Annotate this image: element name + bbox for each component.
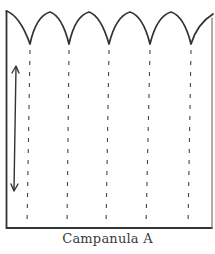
dashed-line-2 bbox=[67, 50, 69, 226]
dashed-line-3 bbox=[106, 50, 109, 226]
dashed-line-5 bbox=[188, 50, 191, 226]
grainline-arrow-icon bbox=[11, 66, 19, 191]
dashed-fold-lines bbox=[27, 50, 191, 226]
campanula-pattern-diagram bbox=[0, 0, 215, 254]
pattern-outline bbox=[7, 11, 214, 228]
scalloped-top-edge bbox=[7, 11, 214, 44]
dashed-line-4 bbox=[146, 50, 150, 226]
diagram-caption: Campanula A bbox=[0, 231, 215, 246]
dashed-line-1 bbox=[27, 50, 30, 226]
